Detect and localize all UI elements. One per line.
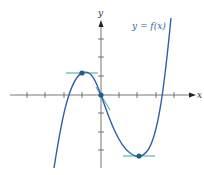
function-graph: y x y = f(x) xyxy=(0,0,204,175)
function-curve xyxy=(54,18,171,168)
y-axis-arrow-icon xyxy=(99,20,104,27)
local-max-point xyxy=(79,70,84,75)
y-axis-label: y xyxy=(97,8,104,18)
local-min-point xyxy=(136,153,141,158)
inflection-tangent-line xyxy=(96,87,110,110)
x-axis-arrow-icon xyxy=(189,93,196,98)
function-label: y = f(x) xyxy=(131,21,166,31)
x-axis-label: x xyxy=(197,90,202,100)
inflection-point xyxy=(98,92,103,97)
